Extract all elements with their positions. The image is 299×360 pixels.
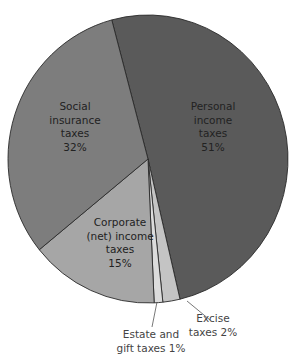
label-line: Estate and (110, 327, 192, 341)
label-line: (net) income (80, 230, 160, 244)
pie-chart (0, 0, 299, 360)
label-line: taxes (178, 127, 248, 141)
label-line: taxes (80, 243, 160, 257)
label-estate-gift: Estate and gift taxes 1% (110, 327, 192, 355)
label-line: Excise (180, 311, 246, 325)
label-social-insurance: Social insurance taxes 32% (40, 100, 110, 154)
label-line: Corporate (80, 216, 160, 230)
estate-leader-line (152, 302, 157, 327)
label-value: 32% (40, 141, 110, 155)
label-value: 51% (178, 141, 248, 155)
label-value: 15% (80, 257, 160, 271)
label-line: Personal (178, 100, 248, 114)
label-line: taxes (40, 127, 110, 141)
label-line: income (178, 114, 248, 128)
label-corporate-income: Corporate (net) income taxes 15% (80, 216, 160, 270)
label-line: insurance (40, 114, 110, 128)
label-personal-income: Personal income taxes 51% (178, 100, 248, 154)
label-value: gift taxes 1% (110, 341, 192, 355)
label-line: Social (40, 100, 110, 114)
